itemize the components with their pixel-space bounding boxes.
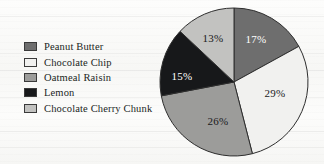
legend-swatch-icon (24, 58, 37, 67)
pie-chart: 17%29%26%15%13% (156, 4, 314, 162)
legend-swatch-icon (24, 104, 37, 113)
pie-chart-figure: Peanut Butter Chocolate Chip Oatmeal Rai… (0, 0, 324, 164)
legend-swatch-icon (24, 42, 37, 51)
pie-slice-label: 15% (172, 70, 193, 82)
legend-swatch-icon (24, 88, 37, 97)
pie-slice-label: 26% (208, 115, 229, 127)
legend-item-label: Oatmeal Raisin (44, 72, 111, 83)
pie-slice-label: 29% (265, 87, 286, 99)
pie-slice-label: 17% (246, 33, 267, 45)
pie-slice-label: 13% (203, 32, 224, 44)
legend-item-label: Chocolate Chip (44, 57, 112, 68)
legend-swatch-icon (24, 73, 37, 82)
pie-chart-svg: 17%29%26%15%13% (156, 4, 314, 162)
legend-item-label: Peanut Butter (44, 41, 103, 52)
legend-item-label: Lemon (44, 87, 75, 98)
legend-item-label: Chocolate Cherry Chunk (44, 103, 152, 114)
